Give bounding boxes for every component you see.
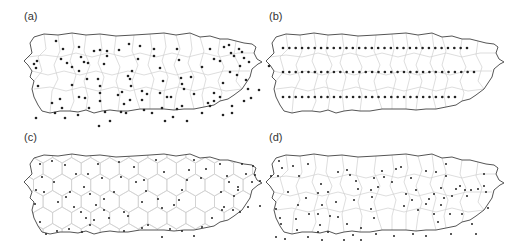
sample-point <box>219 96 222 99</box>
sample-point <box>93 50 96 53</box>
sample-point <box>487 207 489 209</box>
sample-point <box>103 63 106 66</box>
sample-point <box>62 48 65 51</box>
sample-point <box>409 96 412 99</box>
sample-point <box>357 188 359 190</box>
sample-point <box>281 167 283 169</box>
sample-point <box>56 230 58 232</box>
sample-point <box>353 199 355 201</box>
sample-point <box>345 71 348 74</box>
sample-point <box>213 100 216 103</box>
sample-point <box>155 159 157 161</box>
sample-point <box>127 215 129 217</box>
sample-point <box>345 96 348 99</box>
sample-point <box>288 71 291 74</box>
sample-point <box>449 213 451 215</box>
sample-point <box>103 209 105 211</box>
sample-point <box>307 96 310 99</box>
sample-point <box>396 71 399 74</box>
sample-point <box>178 199 180 201</box>
sample-point <box>371 71 374 74</box>
sample-point <box>39 163 41 165</box>
sample-point <box>201 66 204 69</box>
sample-point <box>295 218 297 220</box>
sample-point <box>123 211 125 213</box>
sample-point <box>294 71 297 74</box>
sample-point <box>166 96 169 99</box>
sample-point <box>117 94 120 97</box>
sample-point <box>60 58 63 61</box>
sample-point <box>54 112 57 115</box>
sample-point <box>445 175 447 177</box>
sample-point <box>288 47 291 50</box>
sample-point <box>99 85 102 88</box>
sample-point <box>415 189 417 191</box>
sample-point <box>317 231 319 233</box>
sample-point <box>279 217 281 219</box>
sample-point <box>337 216 339 218</box>
sample-point <box>282 71 285 74</box>
island-outline <box>24 33 262 113</box>
sample-point <box>87 62 90 65</box>
sample-point <box>88 107 91 110</box>
sample-point <box>329 215 331 217</box>
sample-point <box>475 233 477 235</box>
sample-point <box>51 102 54 105</box>
sample-point <box>360 227 362 229</box>
sample-point <box>33 63 36 66</box>
sample-point <box>409 47 412 50</box>
sample-point <box>428 96 431 99</box>
sample-point <box>99 92 102 95</box>
sample-point <box>301 71 304 74</box>
sample-point <box>360 239 362 241</box>
sample-point <box>118 49 121 52</box>
sample-point <box>437 221 439 223</box>
island-map-d <box>255 121 510 242</box>
sample-point <box>282 96 285 99</box>
sample-point <box>238 48 241 51</box>
sample-point <box>143 109 146 112</box>
sample-point <box>205 168 207 170</box>
sample-point <box>415 96 418 99</box>
panel-c: (c) <box>0 121 255 242</box>
sample-point <box>93 219 95 221</box>
sample-point <box>337 171 339 173</box>
sample-point <box>471 223 473 225</box>
sample-point <box>236 74 239 77</box>
sample-point <box>161 207 163 209</box>
sample-point <box>459 185 461 187</box>
sample-point <box>201 112 204 115</box>
sample-point <box>384 96 387 99</box>
sample-point <box>130 85 133 88</box>
sample-point <box>85 217 87 219</box>
sample-point <box>153 48 156 51</box>
sample-point <box>193 235 195 237</box>
sample-point <box>433 193 435 195</box>
sample-point <box>170 96 173 99</box>
sample-point <box>461 213 463 215</box>
sample-point <box>425 235 427 237</box>
sample-point <box>305 197 307 199</box>
sample-point <box>89 224 91 226</box>
sample-point <box>73 206 75 208</box>
sample-point <box>483 185 485 187</box>
sample-point <box>373 217 375 219</box>
sample-point <box>454 96 457 99</box>
island-outline <box>266 154 504 234</box>
sample-point <box>425 203 427 205</box>
sample-point <box>127 75 130 78</box>
sample-point <box>129 99 132 102</box>
sample-point <box>409 71 412 74</box>
sample-point <box>71 66 74 69</box>
sample-point <box>71 84 74 87</box>
sample-point <box>326 96 329 99</box>
sample-point <box>371 196 373 198</box>
sample-point <box>172 116 175 119</box>
sample-point <box>314 96 317 99</box>
sample-point <box>193 93 196 96</box>
sample-point <box>97 163 99 165</box>
sample-point <box>230 52 233 55</box>
sample-point <box>39 221 41 223</box>
sample-point <box>451 195 453 197</box>
sample-point <box>169 228 171 230</box>
